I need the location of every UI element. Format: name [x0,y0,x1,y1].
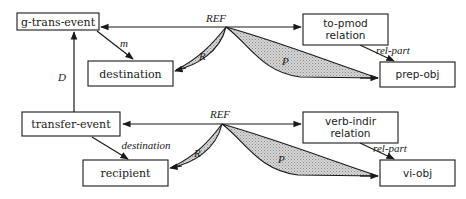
node-verb-indir-relation[interactable]: verb-indir relation [303,112,398,143]
node-label: g-trans-event [21,16,96,29]
p-label-top: P [281,55,289,67]
r-label-bottom: R [193,147,201,159]
node-vi-obj[interactable]: vi-obj [380,160,455,186]
node-label: vi-obj [403,167,432,179]
r-label-top: R [198,50,206,62]
ref-label-bottom: REF [209,108,230,120]
node-prep-obj[interactable]: prep-obj [380,62,455,87]
ref-label-top: REF [205,12,226,24]
destination-label: destination [122,139,171,151]
p-label-bottom: P [277,153,285,165]
node-destination[interactable]: destination [88,61,173,86]
node-to-pmod-relation[interactable]: to-pmod relation [303,14,388,45]
node-label: recipient [100,167,151,180]
node-label: destination [99,68,161,81]
rel-part-label-bottom: rel-part [373,142,408,154]
node-label-line2: relation [330,127,370,139]
node-transfer-event[interactable]: transfer-event [22,112,120,136]
r-fan-bottom [172,124,222,167]
r-fan-top [176,27,226,70]
rel-part-label-top: rel-part [376,44,411,56]
m-label: m [120,37,128,49]
node-label-line1: verb-indir [325,115,377,127]
top-section: g-trans-event destination to-pmod relati… [17,12,455,87]
bottom-section: transfer-event recipient verb-indir rela… [22,108,455,186]
diagram-canvas: g-trans-event destination to-pmod relati… [0,0,466,199]
node-label: transfer-event [31,118,111,131]
d-link: D [57,32,74,112]
node-g-trans-event[interactable]: g-trans-event [17,13,99,30]
node-recipient[interactable]: recipient [83,160,168,186]
node-label: prep-obj [396,68,440,80]
d-label: D [57,71,66,83]
node-label-line2: relation [325,29,365,41]
node-label-line1: to-pmod [323,17,368,29]
